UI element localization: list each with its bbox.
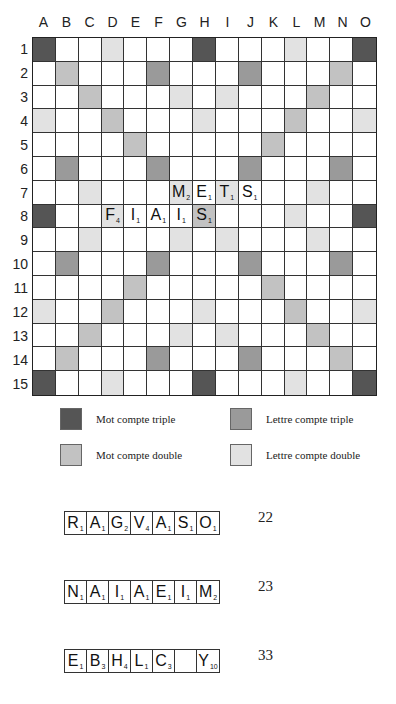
board-cell-l4[interactable] bbox=[285, 109, 308, 133]
board-cell-d12[interactable] bbox=[102, 300, 125, 324]
board-cell-k9[interactable] bbox=[262, 228, 285, 252]
board-cell-f3[interactable] bbox=[147, 86, 170, 110]
board-cell-n11[interactable] bbox=[330, 276, 353, 300]
board-cell-l12[interactable] bbox=[285, 300, 308, 324]
board-cell-d13[interactable] bbox=[102, 324, 125, 348]
board-cell-l13[interactable] bbox=[285, 324, 308, 348]
board-cell-o14[interactable] bbox=[353, 347, 376, 371]
board-cell-e2[interactable] bbox=[124, 62, 147, 86]
board-cell-f12[interactable] bbox=[147, 300, 170, 324]
board-cell-e10[interactable] bbox=[124, 252, 147, 276]
board-cell-b5[interactable] bbox=[56, 133, 79, 157]
board-cell-l2[interactable] bbox=[285, 62, 308, 86]
board-cell-i15[interactable] bbox=[216, 371, 239, 395]
board-cell-b9[interactable] bbox=[56, 228, 79, 252]
board-cell-e5[interactable] bbox=[124, 133, 147, 157]
board-cell-c14[interactable] bbox=[79, 347, 102, 371]
board-cell-f9[interactable] bbox=[147, 228, 170, 252]
board-cell-b8[interactable] bbox=[56, 205, 79, 229]
board-cell-n10[interactable] bbox=[330, 252, 353, 276]
board-cell-o8[interactable] bbox=[353, 205, 376, 229]
board-cell-l10[interactable] bbox=[285, 252, 308, 276]
board-cell-k4[interactable] bbox=[262, 109, 285, 133]
board-cell-a12[interactable] bbox=[33, 300, 56, 324]
board-cell-a3[interactable] bbox=[33, 86, 56, 110]
board-cell-g2[interactable] bbox=[170, 62, 193, 86]
board-cell-i13[interactable] bbox=[216, 324, 239, 348]
board-cell-n15[interactable] bbox=[330, 371, 353, 395]
board-cell-d4[interactable] bbox=[102, 109, 125, 133]
board-cell-l15[interactable] bbox=[285, 371, 308, 395]
board-cell-i2[interactable] bbox=[216, 62, 239, 86]
board-cell-h14[interactable] bbox=[193, 347, 216, 371]
board-cell-e4[interactable] bbox=[124, 109, 147, 133]
board-cell-k10[interactable] bbox=[262, 252, 285, 276]
board-cell-c11[interactable] bbox=[79, 276, 102, 300]
board-cell-g8[interactable]: I1 bbox=[170, 205, 193, 229]
board-cell-i9[interactable] bbox=[216, 228, 239, 252]
board-cell-b14[interactable] bbox=[56, 347, 79, 371]
board-cell-g3[interactable] bbox=[170, 86, 193, 110]
board-cell-b10[interactable] bbox=[56, 252, 79, 276]
board-cell-e7[interactable] bbox=[124, 181, 147, 205]
board-cell-o11[interactable] bbox=[353, 276, 376, 300]
board-cell-o13[interactable] bbox=[353, 324, 376, 348]
board-cell-f4[interactable] bbox=[147, 109, 170, 133]
board-cell-f5[interactable] bbox=[147, 133, 170, 157]
board-cell-d14[interactable] bbox=[102, 347, 125, 371]
board-cell-c8[interactable] bbox=[79, 205, 102, 229]
board-cell-m10[interactable] bbox=[307, 252, 330, 276]
board-cell-e6[interactable] bbox=[124, 157, 147, 181]
board-cell-b3[interactable] bbox=[56, 86, 79, 110]
board-cell-f15[interactable] bbox=[147, 371, 170, 395]
board-cell-b15[interactable] bbox=[56, 371, 79, 395]
board-cell-k3[interactable] bbox=[262, 86, 285, 110]
board-cell-d10[interactable] bbox=[102, 252, 125, 276]
board-cell-c3[interactable] bbox=[79, 86, 102, 110]
board-cell-j4[interactable] bbox=[239, 109, 262, 133]
board-cell-n6[interactable] bbox=[330, 157, 353, 181]
board-cell-n4[interactable] bbox=[330, 109, 353, 133]
board-cell-f6[interactable] bbox=[147, 157, 170, 181]
board-cell-i10[interactable] bbox=[216, 252, 239, 276]
board-cell-e3[interactable] bbox=[124, 86, 147, 110]
board-cell-k15[interactable] bbox=[262, 371, 285, 395]
board-cell-l6[interactable] bbox=[285, 157, 308, 181]
board-cell-n5[interactable] bbox=[330, 133, 353, 157]
board-cell-m8[interactable] bbox=[307, 205, 330, 229]
board-cell-c5[interactable] bbox=[79, 133, 102, 157]
board-cell-l11[interactable] bbox=[285, 276, 308, 300]
board-cell-e15[interactable] bbox=[124, 371, 147, 395]
board-cell-n9[interactable] bbox=[330, 228, 353, 252]
board-cell-j13[interactable] bbox=[239, 324, 262, 348]
board-cell-o15[interactable] bbox=[353, 371, 376, 395]
board-cell-j1[interactable] bbox=[239, 38, 262, 62]
board-cell-l7[interactable] bbox=[285, 181, 308, 205]
board-cell-m11[interactable] bbox=[307, 276, 330, 300]
board-cell-c12[interactable] bbox=[79, 300, 102, 324]
board-cell-i7[interactable]: T1 bbox=[216, 181, 239, 205]
board-cell-h8[interactable]: S1 bbox=[193, 205, 216, 229]
board-cell-a14[interactable] bbox=[33, 347, 56, 371]
board-cell-a2[interactable] bbox=[33, 62, 56, 86]
board-cell-j10[interactable] bbox=[239, 252, 262, 276]
board-cell-f8[interactable]: A1 bbox=[147, 205, 170, 229]
board-cell-j15[interactable] bbox=[239, 371, 262, 395]
board-cell-o10[interactable] bbox=[353, 252, 376, 276]
board-cell-a5[interactable] bbox=[33, 133, 56, 157]
board-cell-i5[interactable] bbox=[216, 133, 239, 157]
board-cell-a11[interactable] bbox=[33, 276, 56, 300]
board-cell-g5[interactable] bbox=[170, 133, 193, 157]
board-cell-g7[interactable]: M2 bbox=[170, 181, 193, 205]
board-cell-a4[interactable] bbox=[33, 109, 56, 133]
board-cell-k14[interactable] bbox=[262, 347, 285, 371]
board-cell-h7[interactable]: E1 bbox=[193, 181, 216, 205]
board-cell-n1[interactable] bbox=[330, 38, 353, 62]
board-cell-h6[interactable] bbox=[193, 157, 216, 181]
board-cell-b11[interactable] bbox=[56, 276, 79, 300]
board-cell-m13[interactable] bbox=[307, 324, 330, 348]
board-cell-e12[interactable] bbox=[124, 300, 147, 324]
board-cell-h12[interactable] bbox=[193, 300, 216, 324]
board-cell-h10[interactable] bbox=[193, 252, 216, 276]
board-cell-i4[interactable] bbox=[216, 109, 239, 133]
